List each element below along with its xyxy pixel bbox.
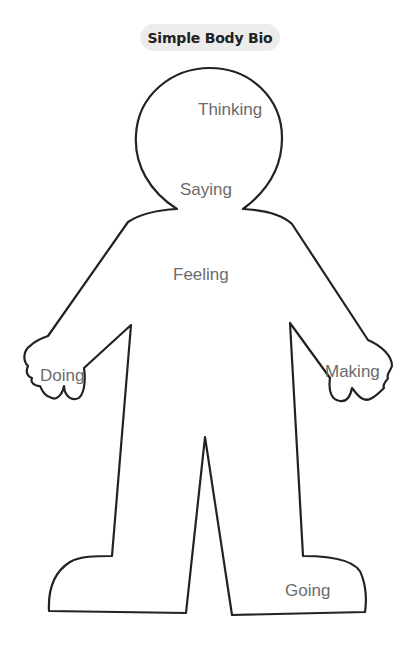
body-outline bbox=[0, 0, 418, 651]
label-thinking: Thinking bbox=[198, 100, 262, 120]
label-feeling: Feeling bbox=[173, 265, 229, 285]
label-doing: Doing bbox=[40, 366, 84, 386]
label-going: Going bbox=[285, 581, 330, 601]
label-saying: Saying bbox=[180, 180, 232, 200]
label-making: Making bbox=[325, 362, 380, 382]
